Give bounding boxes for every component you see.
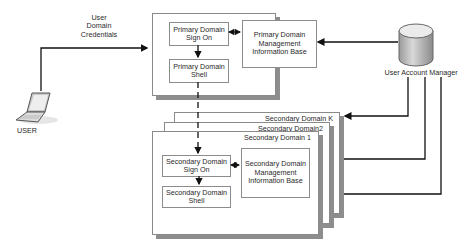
secondary-sign-on-box[interactable]: Secondary Domain Sign On (162, 155, 231, 177)
secondary-mib-box[interactable]: Secondary Domain Management Information … (241, 148, 310, 198)
secondary-mib-label: Secondary Domain Management Information … (245, 160, 307, 185)
secondary-sign-on-label: Secondary Domain Sign On (165, 158, 229, 175)
secondary-shell-box[interactable]: Secondary Domain Shell (162, 186, 231, 208)
laptop-icon (12, 90, 62, 126)
primary-shell-label: Primary Domain Shell (171, 63, 227, 80)
secondary-domain-1-title: Secondary Domain 1 (158, 133, 311, 142)
primary-sign-on-label: Primary Domain Sign On (171, 26, 227, 43)
primary-shell-box[interactable]: Primary Domain Shell (169, 59, 229, 83)
user-account-manager-label: User Account Manager (376, 69, 466, 77)
credentials-label: User Domain Credentials (76, 14, 122, 39)
primary-mib-label: Primary Domain Management Information Ba… (248, 31, 312, 56)
database-icon (396, 21, 436, 69)
primary-sign-on-box[interactable]: Primary Domain Sign On (169, 22, 229, 46)
user-label: USER (12, 127, 42, 135)
primary-mib-box[interactable]: Primary Domain Management Information Ba… (242, 20, 317, 68)
credentials-line-3: Credentials (76, 31, 122, 39)
secondary-shell-label: Secondary Domain Shell (165, 189, 229, 206)
